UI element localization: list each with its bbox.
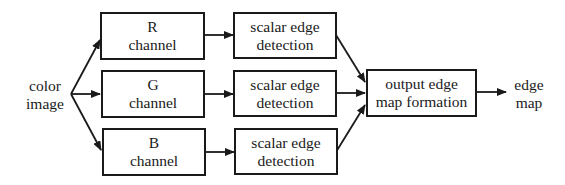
arrow-input-to-b	[71, 94, 101, 150]
b-scalar-edge-detection-box: scalar edge detection	[234, 128, 338, 175]
arrow-input-to-r	[71, 40, 100, 94]
input-label-color-image: color image	[22, 77, 68, 113]
arrow-r-detector-to-combiner	[336, 35, 365, 82]
g-channel-box: G channel	[101, 70, 205, 118]
r-channel-box: R channel	[100, 12, 205, 60]
output-edge-map-formation-box: output edge map formation	[366, 69, 477, 117]
arrow-b-detector-to-combiner	[336, 105, 365, 152]
output-label-edge-map: edge map	[509, 76, 549, 112]
g-scalar-edge-detection-box: scalar edge detection	[233, 70, 337, 117]
r-scalar-edge-detection-box: scalar edge detection	[233, 12, 337, 59]
b-channel-box: B channel	[102, 128, 206, 176]
